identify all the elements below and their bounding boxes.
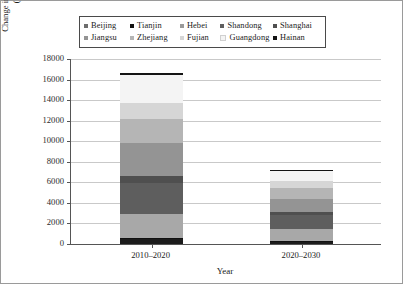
bar-segment-shanghai[interactable] [120,176,183,183]
legend-item-shanghai: Shanghai [273,20,321,32]
gridline [71,223,381,224]
legend-item-tianjin: Tianjin [130,20,180,32]
legend-item-hebei: Hebei [180,20,221,32]
y-tick-label: 4000 [30,197,64,207]
x-tick-mark [302,244,303,248]
legend-label: Jiangsu [91,32,117,44]
gridline [71,141,381,142]
legend-swatch-icon [84,36,88,40]
chart-figure: BeijingTianjinHebeiShandongShanghai Jian… [0,0,403,284]
bar-segment-hebei[interactable] [270,229,333,241]
y-axis-title-line2: (100 million kWh) [11,0,22,61]
chart-legend: BeijingTianjinHebeiShandongShanghai Jian… [79,16,326,48]
legend-label: Hebei [187,20,208,32]
legend-label: Tianjin [137,20,162,32]
legend-row-1: BeijingTianjinHebeiShandongShanghai [84,20,321,32]
x-tick-mark [152,244,153,248]
x-axis-title: Year [70,266,380,276]
y-tick-label: 8000 [30,156,64,166]
y-tick-mark [67,162,71,163]
gridline [71,121,381,122]
legend-swatch-icon [130,24,134,28]
bar-segment-jiangsu[interactable] [120,143,183,176]
y-tick-mark [67,100,71,101]
legend-swatch-icon [180,24,184,28]
legend-row-2: JiangsuZhejiangFujianGuangdongHainan [84,32,321,44]
stacked-bar-2020-2030[interactable] [270,170,333,244]
y-tick-label: 10000 [30,135,64,145]
y-tick-label: 6000 [30,176,64,186]
legend-swatch-icon [130,36,134,40]
legend-swatch-icon [180,36,184,40]
legend-item-zhejiang: Zhejiang [130,32,180,44]
bar-segment-fujian[interactable] [270,181,333,188]
y-tick-label: 0 [30,238,64,248]
y-tick-label: 14000 [30,94,64,104]
gridline [71,80,381,81]
legend-item-fujian: Fujian [180,32,221,44]
legend-swatch-icon [273,24,277,28]
legend-label: Fujian [187,32,209,44]
legend-item-shandong: Shandong [220,20,273,32]
y-tick-mark [67,203,71,204]
y-tick-mark [67,244,71,245]
y-tick-mark [67,121,71,122]
x-tick-label: 2020–2030 [261,250,341,260]
legend-item-guangdong: Guangdong [220,32,273,44]
y-axis-title-line1: Change in Electricity Consumption [0,0,11,61]
y-tick-mark [67,59,71,60]
bar-segment-guangdong[interactable] [120,75,183,104]
legend-item-beijing: Beijing [84,20,130,32]
legend-label: Shandong [227,20,261,32]
bar-segment-fujian[interactable] [120,103,183,118]
gridline [71,100,381,101]
y-axis-title: Change in Electricity Consumption (100 m… [0,0,22,61]
bar-segment-zhejiang[interactable] [120,119,183,144]
y-tick-label: 18000 [30,53,64,63]
legend-swatch-icon [84,24,88,28]
gridline [71,182,381,183]
legend-item-jiangsu: Jiangsu [84,32,130,44]
legend-label: Shanghai [280,20,312,32]
bar-segment-shandong[interactable] [270,215,333,229]
y-tick-mark [67,223,71,224]
gridline [71,162,381,163]
legend-label: Hainan [280,32,305,44]
stacked-bar-2010-2020[interactable] [120,73,183,244]
y-tick-mark [67,80,71,81]
legend-label: Zhejiang [137,32,168,44]
bar-segment-shandong[interactable] [120,183,183,214]
plot-area [70,59,381,245]
gridline [71,59,381,60]
legend-label: Guangdong [229,32,269,44]
bar-segment-guangdong[interactable] [270,171,333,182]
legend-label: Beijing [91,20,116,32]
bar-segment-zhejiang[interactable] [270,188,333,198]
y-tick-mark [67,141,71,142]
legend-item-hainan: Hainan [273,32,321,44]
y-tick-mark [67,182,71,183]
legend-swatch-icon [273,36,277,40]
bar-segment-hebei[interactable] [120,214,183,238]
bar-segment-jiangsu[interactable] [270,199,333,212]
legend-swatch-icon [220,35,226,41]
y-tick-label: 16000 [30,74,64,84]
y-tick-label: 12000 [30,115,64,125]
legend-swatch-icon [220,24,224,28]
y-tick-label: 2000 [30,217,64,227]
gridline [71,203,381,204]
x-tick-label: 2010–2020 [111,250,191,260]
